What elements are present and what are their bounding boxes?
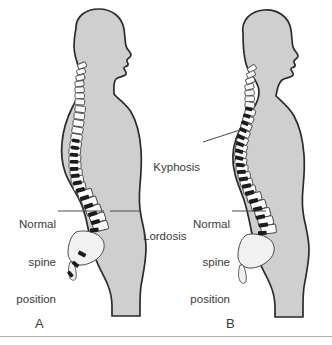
- label-kyphosis: Kyphosis: [150, 136, 200, 199]
- label-line: spine: [2, 256, 56, 269]
- panel-a-illustration: [58, 9, 146, 316]
- label-line: position: [2, 293, 56, 306]
- panel-letter-a: A: [35, 316, 44, 331]
- spine-comparison-figure: Normal spine position Lordosis Kyphosis …: [0, 0, 332, 345]
- panel-letter-b: B: [226, 316, 235, 331]
- figure-baseline: [0, 336, 332, 337]
- label-line: Kyphosis: [150, 161, 200, 174]
- leader-line-kyphosis: [203, 130, 240, 142]
- label-line: spine: [176, 256, 230, 269]
- label-line: Normal: [176, 218, 230, 231]
- label-normal-spine-position-b: Normal spine position: [176, 193, 230, 331]
- label-line: position: [176, 293, 230, 306]
- label-normal-spine-position-a: Normal spine position: [2, 193, 56, 331]
- label-line: Normal: [2, 218, 56, 231]
- coccyx-b: [239, 265, 247, 283]
